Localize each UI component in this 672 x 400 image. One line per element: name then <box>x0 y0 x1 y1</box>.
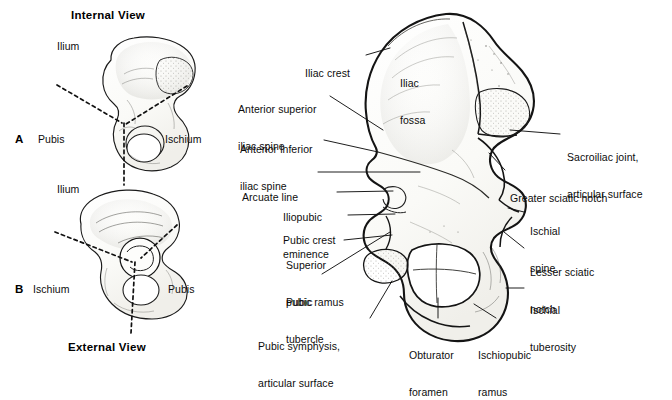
leader-anterior-inferior-iliac-spine <box>324 140 378 152</box>
label-sacroiliac-joint-line1: Sacroiliac joint, <box>567 151 643 163</box>
heading-internal-view: Internal View <box>71 9 145 21</box>
label-iliac-fossa-line2: fossa <box>400 114 425 126</box>
label-ischiopubic-ramus: Ischiopubic ramus <box>478 324 531 400</box>
label-panel-b-ischium: Ischium <box>33 283 70 295</box>
leader-lesser-sciatic-notch <box>504 232 524 248</box>
main-pubic-symphysis-surface <box>364 249 408 283</box>
label-panel-b-ilium: Ilium <box>57 183 79 195</box>
label-pubic-symphysis-line1: Pubic symphysis, <box>258 340 340 352</box>
panel-a-bone <box>57 37 195 185</box>
label-ischial-tuberosity-line1: Ischial <box>530 304 576 316</box>
panel-letter-b: B <box>15 283 23 295</box>
panel-a-obturator-foramen <box>127 134 161 162</box>
heading-external-view: External View <box>68 341 146 353</box>
label-iliac-fossa: Iliac fossa <box>400 52 425 151</box>
main-obturator-foramen <box>407 244 479 307</box>
label-ischiopubic-ramus-line1: Ischiopubic <box>478 349 531 361</box>
label-ischiopubic-ramus-line2: ramus <box>478 386 531 398</box>
label-asis-line1: Anterior superior <box>238 103 316 115</box>
panel-b-acetabulum <box>120 238 160 278</box>
label-obturator-foramen-line1: Obturator <box>409 349 454 361</box>
label-ischial-tuberosity-line2: tuberosity <box>530 341 576 353</box>
panel-b-bone <box>55 190 187 333</box>
label-aiis-line1: Anterior inferior <box>240 143 313 155</box>
leader-pubic-symphysis <box>370 281 392 318</box>
label-ischial-tuberosity: Ischial tuberosity <box>530 279 576 378</box>
label-obturator-foramen-line2: foramen <box>409 386 454 398</box>
panel-b-obturator-foramen <box>123 275 159 305</box>
label-pubic-tubercle-line1: Pubic <box>286 296 324 308</box>
leader-iliopubic-eminence <box>337 191 393 192</box>
label-iliac-fossa-line1: Iliac <box>400 77 425 89</box>
label-pubic-symphysis-line2: articular surface <box>258 377 340 389</box>
label-obturator-foramen: Obturator foramen <box>409 324 454 400</box>
label-lesser-sciatic-notch-line1: Lesser sciatic <box>530 266 594 278</box>
label-ischial-spine-line1: Ischial <box>530 225 560 237</box>
label-superior-pubic-ramus-line1: Superior <box>286 259 344 271</box>
main-hip-bone <box>364 14 534 341</box>
label-panel-a-ischium: Ischium <box>165 133 202 145</box>
panel-letter-a: A <box>15 133 23 145</box>
label-panel-a-ilium: Ilium <box>57 40 79 52</box>
label-pubic-symphysis: Pubic symphysis, articular surface <box>258 315 340 400</box>
label-panel-a-pubis: Pubis <box>38 133 65 145</box>
label-panel-b-pubis: Pubis <box>168 283 195 295</box>
